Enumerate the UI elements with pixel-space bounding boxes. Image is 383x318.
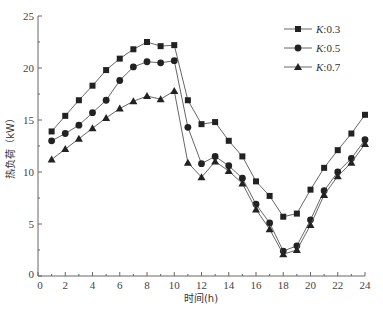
x-tick-label: 18 xyxy=(278,279,290,291)
y-tick-label: 5 xyxy=(29,218,35,230)
square-marker xyxy=(308,187,314,193)
legend-label: K:0.3 xyxy=(315,23,341,35)
x-tick-label: 8 xyxy=(144,279,150,291)
triangle-marker xyxy=(75,135,83,142)
x-tick-label: 6 xyxy=(117,279,123,291)
square-marker xyxy=(226,138,232,144)
square-marker xyxy=(62,113,68,119)
x-tick-label: 4 xyxy=(90,279,96,291)
square-marker xyxy=(144,39,150,45)
legend-item: K:0.5 xyxy=(284,42,341,54)
x-tick-label: 2 xyxy=(63,279,69,291)
circle-marker xyxy=(171,57,178,64)
x-tick-label: 12 xyxy=(196,279,207,291)
circle-marker xyxy=(103,97,110,104)
x-tick-label: 20 xyxy=(305,279,317,291)
square-marker xyxy=(362,112,368,118)
x-tick-label: 24 xyxy=(360,279,372,291)
square-marker xyxy=(103,67,109,73)
triangle-marker xyxy=(116,105,124,112)
triangle-marker xyxy=(61,145,69,152)
square-marker xyxy=(76,97,82,103)
series-line xyxy=(52,91,365,254)
square-marker xyxy=(253,178,259,184)
circle-marker xyxy=(295,45,302,52)
square-marker xyxy=(130,46,136,52)
legend-item: K:0.3 xyxy=(284,23,341,35)
circle-marker xyxy=(184,124,191,131)
x-tick-label: 22 xyxy=(332,279,343,291)
triangle-marker xyxy=(102,114,110,121)
square-marker xyxy=(348,131,354,137)
y-tick-label: 10 xyxy=(23,166,35,178)
x-tick-label: 14 xyxy=(223,279,235,291)
circle-marker xyxy=(89,109,96,116)
square-marker xyxy=(49,128,55,134)
circle-marker xyxy=(144,58,151,65)
series-k-0-5 xyxy=(48,57,368,254)
square-marker xyxy=(239,153,245,159)
square-marker xyxy=(90,83,96,89)
square-marker xyxy=(212,119,218,125)
line-chart: 0246810121416182022240510152025 K:0.3K:0… xyxy=(0,0,383,318)
square-marker xyxy=(335,147,341,153)
circle-marker xyxy=(198,160,205,167)
y-axis-title: 热负荷（kW） xyxy=(4,113,16,179)
y-tick-label: 20 xyxy=(23,62,35,74)
legend-item: K:0.7 xyxy=(284,61,341,73)
circle-marker xyxy=(130,64,137,71)
square-marker xyxy=(158,43,164,49)
circle-marker xyxy=(75,122,82,129)
square-marker xyxy=(117,56,123,62)
triangle-marker xyxy=(252,205,260,212)
square-marker xyxy=(280,214,286,220)
circle-marker xyxy=(116,77,123,84)
square-marker xyxy=(185,97,191,103)
y-tick-label: 15 xyxy=(23,114,35,126)
square-marker xyxy=(294,211,300,217)
square-marker xyxy=(321,165,327,171)
x-tick-label: 16 xyxy=(251,279,263,291)
x-axis-title: 时间(h) xyxy=(184,292,218,304)
x-tick-label: 0 xyxy=(37,279,43,291)
triangle-marker xyxy=(129,97,137,104)
circle-marker xyxy=(157,59,164,66)
legend: K:0.3K:0.5K:0.7 xyxy=(284,23,341,73)
square-marker xyxy=(199,121,205,127)
square-marker xyxy=(267,193,273,199)
y-tick-label: 25 xyxy=(23,10,35,22)
x-tick-label: 10 xyxy=(169,279,181,291)
legend-label: K:0.7 xyxy=(315,61,341,73)
triangle-marker xyxy=(294,63,302,70)
triangle-marker xyxy=(48,156,56,163)
y-tick-label: 0 xyxy=(29,268,35,280)
legend-label: K:0.5 xyxy=(315,42,341,54)
triangle-marker xyxy=(143,92,151,99)
triangle-marker xyxy=(89,124,97,131)
circle-marker xyxy=(48,137,55,144)
circle-marker xyxy=(62,130,69,137)
triangle-marker xyxy=(184,159,192,166)
square-marker xyxy=(295,26,301,32)
square-marker xyxy=(171,42,177,48)
triangle-marker xyxy=(170,87,178,94)
series-line xyxy=(52,61,365,251)
